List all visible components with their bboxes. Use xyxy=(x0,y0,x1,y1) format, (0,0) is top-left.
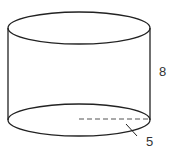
bottom-ellipse xyxy=(8,104,150,136)
radius-label: 5 xyxy=(146,134,153,149)
top-ellipse xyxy=(8,12,150,44)
height-label: 8 xyxy=(159,64,166,79)
cylinder-diagram: 8 5 xyxy=(0,0,178,152)
